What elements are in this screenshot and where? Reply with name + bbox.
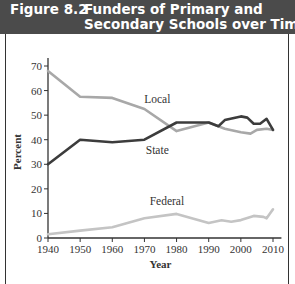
y-tick-label: 20: [31, 183, 43, 195]
y-axis-title: Percent: [11, 134, 23, 170]
x-tick-label: 1980: [166, 243, 189, 255]
x-tick-label: 2010: [262, 243, 285, 255]
y-tick-label: 10: [31, 207, 43, 219]
x-tick-label: 1960: [101, 243, 124, 255]
series-label-federal: Federal: [150, 195, 184, 207]
chart-labels: LocalStateFederal: [144, 93, 184, 207]
y-tick-label: 30: [31, 158, 43, 170]
x-tick-label: 2000: [230, 243, 253, 255]
series-label-local: Local: [144, 93, 170, 105]
x-tick-label: 1990: [198, 243, 221, 255]
series-line-state: [48, 116, 273, 164]
y-tick-label: 70: [31, 60, 43, 72]
x-axis-title: Year: [150, 258, 172, 270]
y-tick-label: 50: [31, 109, 43, 121]
chart-axes: 0102030405060701940195019601970198019902…: [11, 58, 285, 270]
x-tick-label: 1970: [133, 243, 156, 255]
series-label-state: State: [146, 144, 169, 156]
series-line-federal: [48, 209, 273, 234]
y-tick-label: 40: [31, 134, 43, 146]
x-tick-label: 1950: [69, 243, 92, 255]
y-tick-label: 60: [31, 85, 43, 97]
x-tick-label: 1940: [37, 243, 60, 255]
